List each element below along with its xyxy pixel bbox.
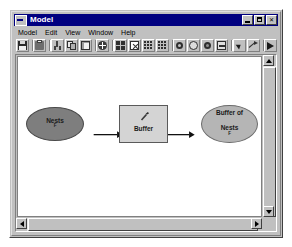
play-run-icon <box>267 42 274 50</box>
toolbar-separator <box>230 40 231 51</box>
auto-layout-button[interactable] <box>114 39 127 52</box>
connect-tool-button[interactable] <box>247 39 260 52</box>
menu-item-view[interactable]: View <box>61 27 84 38</box>
model-document-icon <box>15 15 27 26</box>
toolbar-group-file <box>16 39 30 52</box>
copy-icon <box>67 41 76 50</box>
window-title: Model <box>30 14 53 26</box>
hammer-tool-icon <box>139 111 150 122</box>
print-button[interactable] <box>33 39 46 52</box>
arrow-pointer-icon <box>236 42 243 49</box>
menu-item-window[interactable]: Window <box>84 27 117 38</box>
model-window: Model ✕ Model Edit View Window Help <box>9 9 283 238</box>
add-circle-icon <box>98 41 107 50</box>
input-label: NestsF <box>46 117 64 132</box>
vertical-scrollbar[interactable] <box>263 55 276 217</box>
toolbar-group-clipboard <box>51 39 93 52</box>
chevron-left-icon <box>20 221 24 227</box>
toolbar-separator <box>94 40 95 51</box>
menu-item-model[interactable]: Model <box>14 27 41 38</box>
dots-grid-icon <box>144 41 153 50</box>
save-icon <box>18 41 27 50</box>
add-data-button[interactable] <box>96 39 109 52</box>
scroll-down-button[interactable] <box>263 206 274 217</box>
copy-button[interactable] <box>65 39 78 52</box>
pan-button[interactable] <box>187 39 200 52</box>
toolbar-separator <box>48 40 49 51</box>
menu-item-edit[interactable]: Edit <box>41 27 61 38</box>
diagram-properties-button[interactable] <box>142 39 155 52</box>
toolbar-separator <box>111 40 112 51</box>
canvas-frame: NestsF Buffer Buffer ofNestsF <box>15 54 277 232</box>
paste-button[interactable] <box>79 39 92 52</box>
paste-icon <box>81 41 90 50</box>
connect-arrow-icon <box>249 41 258 50</box>
toolbar-group-run <box>264 39 278 52</box>
scrollbar-corner <box>263 218 276 231</box>
magnifier-icon <box>176 42 183 49</box>
zoom-in-button[interactable] <box>173 39 186 52</box>
validate-model-button[interactable] <box>128 39 141 52</box>
dots-grid-alt-icon <box>158 41 167 50</box>
scroll-right-button[interactable] <box>251 218 262 229</box>
close-button[interactable]: ✕ <box>266 15 277 25</box>
print-icon <box>35 41 44 50</box>
zoom-selected-icon <box>204 42 211 49</box>
tool-label: Buffer <box>134 125 153 133</box>
box-x-icon <box>130 41 139 50</box>
window-controls: ✕ <box>242 15 278 25</box>
connector-output-arrowhead <box>189 131 195 138</box>
model-canvas[interactable]: NestsF Buffer Buffer ofNestsF <box>17 56 262 217</box>
toolbar-separator <box>31 40 32 51</box>
full-extent-icon <box>217 41 226 50</box>
zoom-selected-button[interactable] <box>201 39 214 52</box>
model-element-input-nests[interactable]: NestsF <box>26 107 84 141</box>
toolbar <box>14 38 278 53</box>
maximize-button[interactable] <box>254 15 265 25</box>
scissors-icon <box>53 41 62 50</box>
toolbar-group-print <box>33 39 47 52</box>
toolbar-separator <box>171 40 172 51</box>
close-icon: ✕ <box>267 16 276 24</box>
grid-layout-icon <box>116 41 125 50</box>
model-diagram: NestsF Buffer Buffer ofNestsF <box>18 57 261 216</box>
toolbar-group-add <box>96 39 110 52</box>
menu-item-help[interactable]: Help <box>117 27 139 38</box>
scroll-up-button[interactable] <box>263 55 274 66</box>
select-tool-button[interactable] <box>233 39 246 52</box>
scroll-left-button[interactable] <box>16 218 27 229</box>
full-extent-button[interactable] <box>215 39 228 52</box>
run-button[interactable] <box>264 39 277 52</box>
save-button[interactable] <box>16 39 29 52</box>
vertical-scroll-thumb[interactable] <box>263 67 276 217</box>
model-element-tool-buffer[interactable]: Buffer <box>119 105 168 143</box>
output-label: Buffer ofNestsF <box>216 109 243 139</box>
chevron-right-icon <box>255 221 259 227</box>
model-element-output-buffer-of-nests[interactable]: Buffer ofNestsF <box>201 105 258 143</box>
minimize-button[interactable] <box>242 15 253 25</box>
window-inner-frame: Model ✕ Model Edit View Window Help <box>11 11 281 236</box>
menu-bar: Model Edit View Window Help <box>14 27 278 38</box>
toolbar-group-tools <box>233 39 261 52</box>
horizontal-scroll-thumb[interactable] <box>28 218 258 231</box>
toolbar-group-layout <box>114 39 170 52</box>
toolbar-separator <box>262 40 263 51</box>
cut-button[interactable] <box>51 39 64 52</box>
chevron-up-icon <box>266 59 272 63</box>
chevron-down-icon <box>266 210 272 214</box>
horizontal-scrollbar[interactable] <box>16 218 262 231</box>
toolbar-group-navigate <box>173 39 229 52</box>
title-bar[interactable]: Model ✕ <box>14 14 278 26</box>
model-report-button[interactable] <box>156 39 169 52</box>
pan-hand-icon <box>189 41 198 50</box>
